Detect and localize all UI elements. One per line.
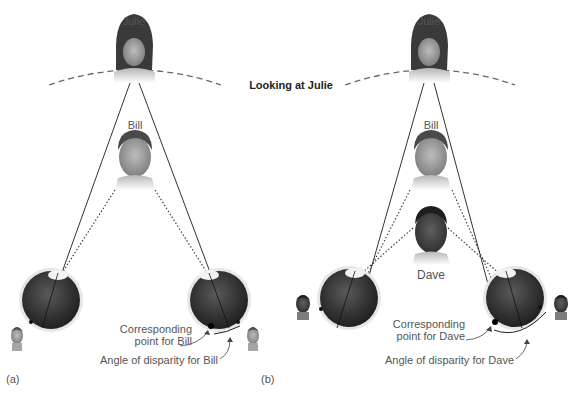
figure-canvas <box>0 0 586 401</box>
arrowhead-icon <box>204 330 210 335</box>
left-eye-a <box>19 268 83 332</box>
julie-label-b: Julie <box>418 15 441 27</box>
corresponding-point-bill <box>208 323 214 329</box>
bill-retinal-thumb-right <box>247 327 259 351</box>
dave-label: Dave <box>417 269 445 281</box>
retinal-point-bill-right <box>236 320 240 324</box>
angle-of-disparity-label-a: Angle of disparity for Bill <box>90 354 218 366</box>
panel-a <box>11 14 259 359</box>
panel-tag-a: (a) <box>6 373 19 385</box>
dave-retinal-thumb-left <box>296 295 310 320</box>
figure-title: Looking at Julie <box>249 79 333 91</box>
retinal-point-dave-left <box>319 307 323 311</box>
corresponding-point-label-b-line1: Corresponding <box>387 318 465 330</box>
right-eye-a <box>187 268 251 332</box>
dave-face <box>412 206 450 265</box>
panel-tag-b: (b) <box>261 373 274 385</box>
corresponding-point-label-a-line1: Corresponding <box>118 323 192 335</box>
arrowhead-icon <box>524 339 530 344</box>
pointer-disparity-dave <box>516 342 527 359</box>
bill-retinal-thumb-left <box>11 327 23 351</box>
left-eye-b <box>317 266 381 330</box>
panel-b <box>296 14 568 359</box>
retinal-point-dave-right <box>538 305 542 309</box>
angle-of-disparity-label-b: Angle of disparity for Dave <box>376 354 514 366</box>
corresponding-point-dave <box>492 319 498 325</box>
bill-label-a: Bill <box>128 119 143 131</box>
pointer-disparity-bill <box>220 340 230 359</box>
bill-face-b <box>411 130 451 190</box>
corresponding-point-label-a-line2: point for Bill <box>118 335 192 347</box>
corresponding-point-label-b-line2: point for Dave <box>387 330 465 342</box>
binocular-disparity-figure: Looking at Julie Julie Bill Correspondin… <box>0 0 586 401</box>
arrowhead-icon <box>227 337 233 342</box>
retinal-point-bill-left <box>29 320 33 324</box>
dave-retinal-thumb-right <box>554 295 568 320</box>
julie-label-a: Julie <box>123 15 146 27</box>
bill-face-a <box>115 130 155 190</box>
bill-label-b: Bill <box>424 119 439 131</box>
